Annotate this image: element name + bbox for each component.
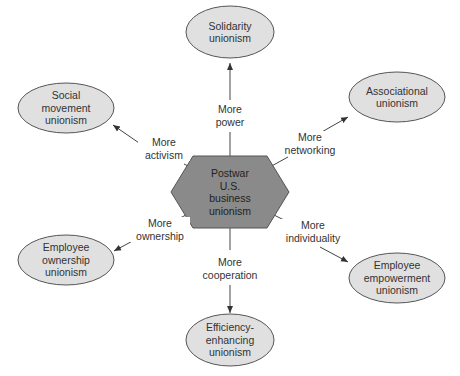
node-line: unionism — [376, 97, 418, 110]
edge-label-line: More — [138, 136, 190, 149]
node-line: Efficiency- — [206, 321, 254, 334]
edge-label-activism: More activism — [138, 136, 190, 161]
node-line: Employee — [43, 241, 90, 254]
node-line: empowerment — [364, 272, 431, 285]
edge-label-networking: More networking — [278, 131, 342, 156]
edge-label-cooperation: More cooperation — [196, 256, 264, 281]
node-line: unionism — [209, 32, 251, 45]
edge-label-individuality: More individuality — [281, 219, 345, 244]
edge-label-line: activism — [138, 149, 190, 162]
center-line-1: Postwar — [211, 167, 249, 180]
node-line: Employee — [374, 259, 421, 272]
center-line-4: unionism — [209, 205, 251, 218]
edge-label-line: More — [130, 217, 190, 230]
center-node: Postwar U.S. business unionism — [175, 160, 285, 224]
edge-label-ownership: More ownership — [130, 217, 190, 242]
edge-label-line: More — [205, 103, 255, 116]
node-line: Associational — [366, 85, 428, 98]
edge-label-line: More — [278, 131, 342, 144]
edge-label-power: More power — [205, 103, 255, 128]
node-line: unionism — [45, 114, 87, 127]
edge-label-line: power — [205, 116, 255, 129]
node-line: unionism — [209, 346, 251, 359]
edge-label-line: More — [281, 219, 345, 232]
center-line-2: U.S. — [220, 180, 240, 193]
node-line: movement — [41, 102, 90, 115]
edge-label-line: More — [196, 256, 264, 269]
node-efficiency-enhancing-unionism: Efficiency- enhancing unionism — [186, 318, 274, 362]
center-line-3: business — [209, 192, 250, 205]
node-employee-empowerment-unionism: Employee empowerment unionism — [349, 256, 445, 300]
edge-label-line: individuality — [281, 232, 345, 245]
edge-label-line: ownership — [130, 230, 190, 243]
edge-individuality-upper — [320, 247, 348, 262]
node-employee-ownership-unionism: Employee ownership unionism — [18, 238, 114, 282]
node-line: ownership — [42, 254, 90, 267]
node-solidarity-unionism: Solidarity unionism — [186, 10, 274, 54]
node-line: enhancing — [206, 334, 254, 347]
node-line: unionism — [376, 284, 418, 297]
node-social-movement-unionism: Social movement unionism — [18, 86, 114, 130]
edge-label-line: cooperation — [196, 269, 264, 282]
node-line: Solidarity — [208, 20, 251, 33]
node-associational-unionism: Associational unionism — [349, 75, 445, 119]
node-line: Social — [52, 89, 81, 102]
edge-label-line: networking — [278, 144, 342, 157]
node-line: unionism — [45, 266, 87, 279]
